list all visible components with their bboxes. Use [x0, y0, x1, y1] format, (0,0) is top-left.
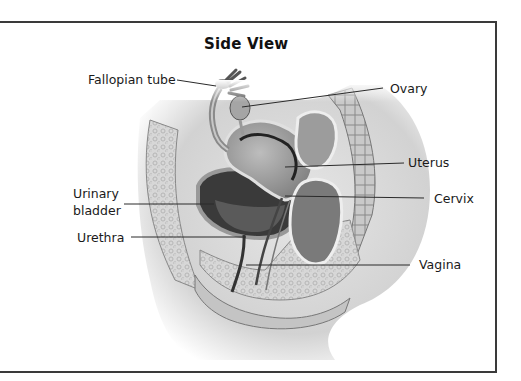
figure-title: Side View — [204, 35, 288, 53]
rectum-upper — [296, 112, 336, 168]
label-fallopian-tube: Fallopian tube — [88, 72, 176, 87]
label-vagina: Vagina — [419, 257, 461, 272]
label-uterus: Uterus — [408, 155, 449, 170]
rectum-lower — [290, 179, 342, 264]
label-urinary-bladder-line1: Urinary — [73, 186, 119, 201]
label-cervix: Cervix — [434, 191, 474, 206]
label-urethra: Urethra — [77, 230, 124, 245]
label-urinary-bladder-line2: bladder — [73, 203, 121, 218]
label-ovary: Ovary — [390, 81, 427, 96]
